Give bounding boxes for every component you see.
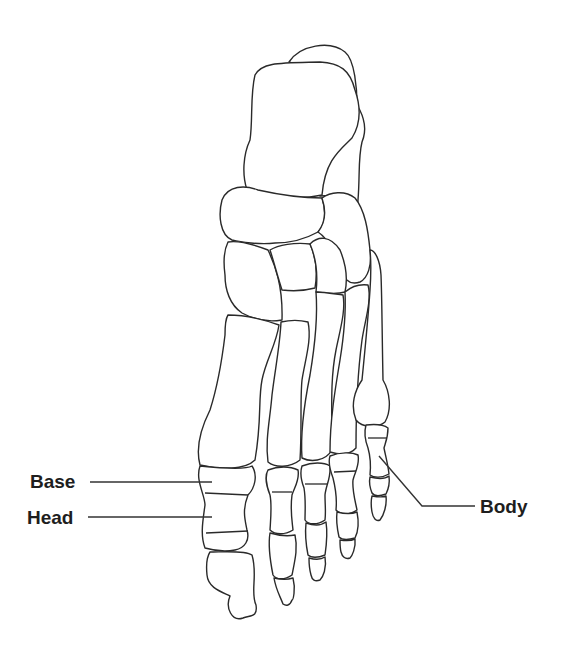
fifth-toe-proximal-phalanx bbox=[365, 425, 389, 478]
fifth-toe-middle-phalanx bbox=[370, 476, 390, 495]
foot-bones-diagram: Base Head Body bbox=[0, 0, 569, 647]
fourth-toe-middle-phalanx bbox=[337, 512, 358, 539]
label-head: Head bbox=[27, 508, 73, 527]
second-toe-proximal-phalanx bbox=[266, 467, 298, 534]
fifth-toe-distal-phalanx bbox=[371, 496, 386, 521]
label-body: Body bbox=[480, 497, 528, 516]
second-toe-distal-phalanx bbox=[274, 578, 294, 605]
body-leader-line bbox=[379, 456, 475, 506]
third-toe-proximal-phalanx bbox=[301, 463, 330, 524]
fourth-toe-distal-phalanx bbox=[340, 539, 355, 559]
hallux-proximal-phalanx bbox=[199, 466, 256, 551]
third-toe-middle-phalanx bbox=[306, 522, 327, 557]
fourth-toe-proximal-phalanx bbox=[329, 453, 358, 514]
foot-skeleton-illustration bbox=[0, 0, 569, 647]
second-toe-middle-phalanx bbox=[269, 533, 296, 579]
third-toe-distal-phalanx bbox=[309, 557, 326, 581]
hallux-distal-phalanx bbox=[206, 552, 256, 619]
label-base: Base bbox=[30, 472, 75, 491]
